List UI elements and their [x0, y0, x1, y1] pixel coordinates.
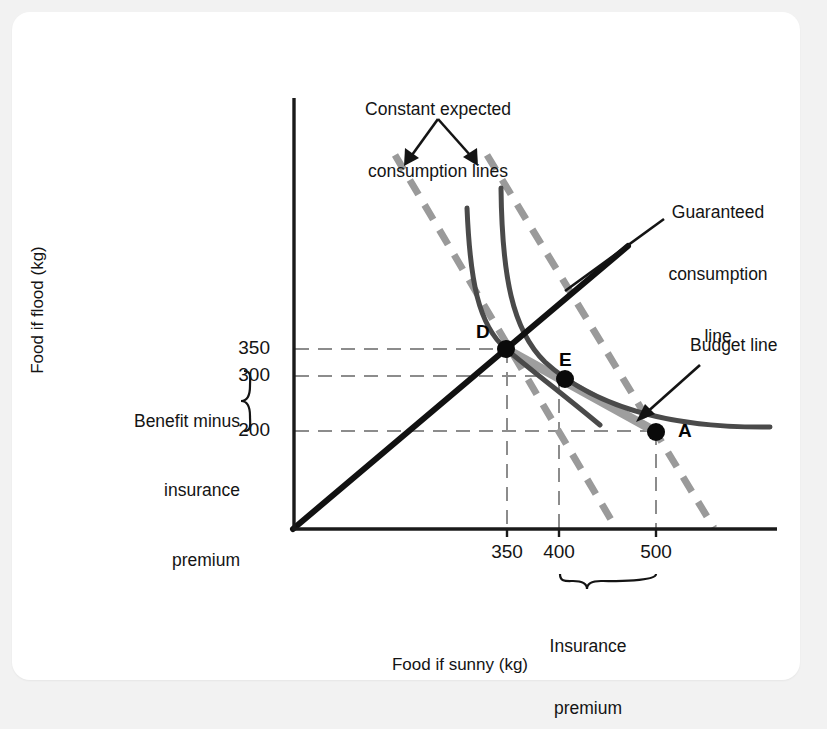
- constant-lines-annotation-line1: Constant expected: [348, 99, 528, 120]
- point-A[interactable]: [647, 423, 665, 441]
- guaranteed-line-annotation-line2: consumption: [648, 264, 788, 285]
- guaranteed-line-annotation-line1: Guaranteed: [648, 202, 788, 223]
- insurance-bracket-annotation: Insurance premium: [518, 595, 658, 729]
- constant-lines-annotation-line2: consumption lines: [348, 161, 528, 182]
- point-label-A: A: [678, 420, 692, 442]
- x-tick-label-350: 350: [477, 541, 537, 563]
- x-tick-label-400: 400: [529, 541, 589, 563]
- insurance-bracket-line1: Insurance: [518, 636, 658, 657]
- x-tick-label-500: 500: [626, 541, 686, 563]
- x-bracket: [560, 574, 656, 589]
- benefit-bracket-line3: premium: [50, 549, 240, 572]
- benefit-bracket-line1: Benefit minus: [50, 410, 240, 433]
- point-label-D: D: [476, 321, 490, 343]
- benefit-bracket-annotation: Benefit minus insurance premium: [50, 364, 240, 618]
- point-E[interactable]: [556, 370, 574, 388]
- figure-root: Food if flood (kg) Food if sunny (kg) 35…: [0, 0, 827, 729]
- point-label-E: E: [559, 349, 572, 371]
- y-tick-label-350: 350: [208, 337, 270, 359]
- insurance-bracket-line2: premium: [518, 698, 658, 719]
- constant-lines-annotation: Constant expected consumption lines: [348, 58, 528, 223]
- benefit-bracket-line2: insurance: [50, 479, 240, 502]
- point-D[interactable]: [497, 340, 515, 358]
- y-axis-title: Food if flood (kg): [28, 210, 48, 410]
- budget-line-annotation: Budget line: [690, 335, 810, 356]
